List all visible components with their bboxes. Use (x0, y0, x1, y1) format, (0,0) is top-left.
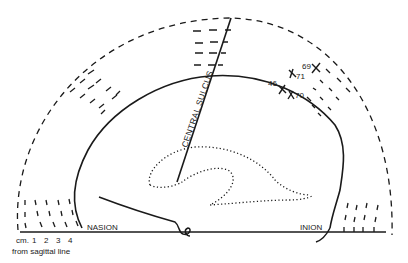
marker-69 (312, 63, 320, 73)
point-label-71: 71 (296, 72, 305, 81)
brain-diagram: CENTRAL SULCUS 69 71 46 70 (0, 0, 408, 263)
inion-label: INION (300, 223, 322, 232)
left-scale-hatch (25, 199, 78, 228)
nasion-label: NASION (87, 223, 118, 232)
marker-46 (279, 85, 286, 94)
point-label-46: 46 (268, 79, 277, 88)
scale-unit-label: cm. (16, 236, 29, 245)
point-label-69: 69 (302, 62, 311, 71)
scale-caption: from sagittal line (12, 247, 71, 256)
marker-71 (289, 69, 296, 78)
front-hatch-marks (70, 70, 120, 114)
point-label-70: 70 (295, 91, 304, 100)
scale-tick-3: 3 (56, 236, 61, 245)
sylvian-dotted-outline (149, 147, 310, 195)
sylvian-dotted-inner (150, 168, 312, 205)
scale-tick-1: 1 (32, 236, 37, 245)
scale-tick-4: 4 (68, 236, 73, 245)
central-sulcus-label: CENTRAL SULCUS (179, 69, 215, 148)
back-hatch-marks (307, 69, 350, 116)
right-scale-hatch (344, 203, 378, 232)
scale-tick-2: 2 (44, 236, 49, 245)
